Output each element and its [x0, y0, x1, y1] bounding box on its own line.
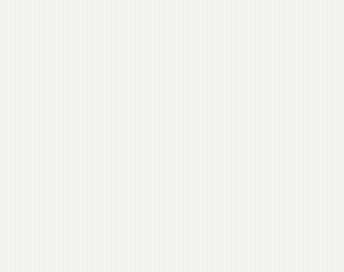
polarization-chart — [0, 0, 344, 272]
